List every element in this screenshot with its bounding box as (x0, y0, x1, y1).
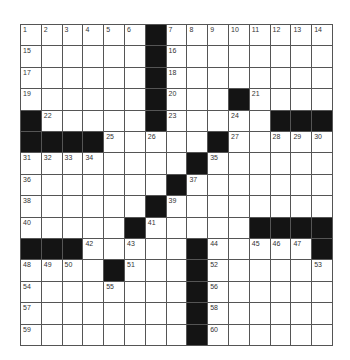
grid-cell[interactable] (63, 303, 83, 323)
grid-cell[interactable] (229, 260, 249, 280)
grid-cell[interactable]: 53 (312, 260, 332, 280)
grid-cell[interactable] (146, 175, 166, 195)
grid-cell[interactable] (271, 153, 291, 173)
grid-cell[interactable] (271, 46, 291, 66)
grid-cell[interactable] (83, 260, 103, 280)
grid-cell[interactable]: 35 (208, 153, 228, 173)
grid-cell[interactable] (187, 196, 207, 216)
grid-cell[interactable]: 49 (42, 260, 62, 280)
grid-cell[interactable] (42, 303, 62, 323)
grid-cell[interactable]: 19 (21, 89, 41, 109)
grid-cell[interactable]: 47 (291, 239, 311, 259)
grid-cell[interactable] (229, 196, 249, 216)
grid-cell[interactable] (83, 303, 103, 323)
grid-cell[interactable] (125, 282, 145, 302)
grid-cell[interactable] (312, 153, 332, 173)
grid-cell[interactable]: 21 (250, 89, 270, 109)
grid-cell[interactable] (125, 175, 145, 195)
grid-cell[interactable] (208, 89, 228, 109)
grid-cell[interactable] (291, 153, 311, 173)
grid-cell[interactable]: 57 (21, 303, 41, 323)
grid-cell[interactable] (271, 89, 291, 109)
grid-cell[interactable] (208, 196, 228, 216)
grid-cell[interactable] (187, 218, 207, 238)
grid-cell[interactable] (291, 175, 311, 195)
grid-cell[interactable] (125, 68, 145, 88)
grid-cell[interactable] (229, 153, 249, 173)
grid-cell[interactable] (63, 111, 83, 131)
grid-cell[interactable] (250, 260, 270, 280)
grid-cell[interactable]: 48 (21, 260, 41, 280)
grid-cell[interactable]: 20 (167, 89, 187, 109)
grid-cell[interactable] (271, 68, 291, 88)
grid-cell[interactable] (83, 68, 103, 88)
grid-cell[interactable] (63, 175, 83, 195)
grid-cell[interactable] (291, 89, 311, 109)
grid-cell[interactable] (312, 282, 332, 302)
grid-cell[interactable]: 22 (42, 111, 62, 131)
grid-cell[interactable] (187, 46, 207, 66)
grid-cell[interactable] (312, 68, 332, 88)
grid-cell[interactable]: 10 (229, 25, 249, 45)
grid-cell[interactable] (104, 325, 124, 345)
grid-cell[interactable] (125, 303, 145, 323)
grid-cell[interactable] (42, 218, 62, 238)
grid-cell[interactable] (42, 196, 62, 216)
grid-cell[interactable] (83, 46, 103, 66)
grid-cell[interactable] (83, 282, 103, 302)
grid-cell[interactable] (250, 303, 270, 323)
grid-cell[interactable] (187, 111, 207, 131)
grid-cell[interactable]: 60 (208, 325, 228, 345)
grid-cell[interactable]: 11 (250, 25, 270, 45)
grid-cell[interactable] (63, 46, 83, 66)
grid-cell[interactable] (250, 153, 270, 173)
grid-cell[interactable] (229, 282, 249, 302)
grid-cell[interactable] (83, 218, 103, 238)
grid-cell[interactable] (146, 282, 166, 302)
grid-cell[interactable] (104, 239, 124, 259)
grid-cell[interactable]: 40 (21, 218, 41, 238)
grid-cell[interactable] (104, 68, 124, 88)
grid-cell[interactable] (63, 89, 83, 109)
grid-cell[interactable]: 41 (146, 218, 166, 238)
grid-cell[interactable]: 12 (271, 25, 291, 45)
grid-cell[interactable] (42, 175, 62, 195)
grid-cell[interactable]: 26 (146, 132, 166, 152)
grid-cell[interactable]: 7 (167, 25, 187, 45)
grid-cell[interactable] (187, 68, 207, 88)
grid-cell[interactable] (104, 218, 124, 238)
grid-cell[interactable] (229, 175, 249, 195)
grid-cell[interactable]: 28 (271, 132, 291, 152)
grid-cell[interactable] (63, 196, 83, 216)
grid-cell[interactable]: 13 (291, 25, 311, 45)
grid-cell[interactable] (167, 325, 187, 345)
grid-cell[interactable] (271, 325, 291, 345)
grid-cell[interactable] (291, 196, 311, 216)
grid-cell[interactable] (167, 303, 187, 323)
grid-cell[interactable]: 50 (63, 260, 83, 280)
grid-cell[interactable]: 27 (229, 132, 249, 152)
grid-cell[interactable] (125, 153, 145, 173)
grid-cell[interactable] (250, 111, 270, 131)
grid-cell[interactable] (42, 68, 62, 88)
grid-cell[interactable] (291, 260, 311, 280)
grid-cell[interactable] (312, 196, 332, 216)
grid-cell[interactable] (250, 68, 270, 88)
grid-cell[interactable] (42, 89, 62, 109)
grid-cell[interactable] (229, 303, 249, 323)
grid-cell[interactable] (146, 303, 166, 323)
grid-cell[interactable]: 38 (21, 196, 41, 216)
grid-cell[interactable]: 5 (104, 25, 124, 45)
grid-cell[interactable] (229, 46, 249, 66)
grid-cell[interactable]: 59 (21, 325, 41, 345)
grid-cell[interactable] (167, 282, 187, 302)
grid-cell[interactable]: 36 (21, 175, 41, 195)
grid-cell[interactable]: 33 (63, 153, 83, 173)
grid-cell[interactable] (250, 196, 270, 216)
grid-cell[interactable]: 23 (167, 111, 187, 131)
grid-cell[interactable] (125, 132, 145, 152)
grid-cell[interactable] (104, 303, 124, 323)
grid-cell[interactable] (146, 239, 166, 259)
grid-cell[interactable]: 3 (63, 25, 83, 45)
grid-cell[interactable] (42, 282, 62, 302)
